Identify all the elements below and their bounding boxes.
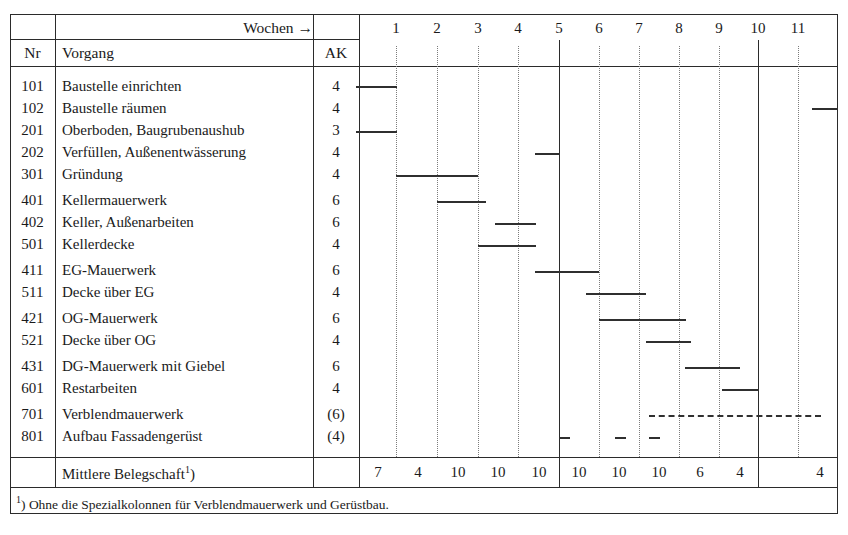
footnote-rule (10, 487, 838, 488)
row-nr: 102 (10, 100, 55, 117)
gantt-bar-801-seg-1 (559, 437, 570, 439)
row-nr: 501 (10, 236, 55, 253)
gridline-week-8 (679, 46, 680, 457)
staffing-rule-top (10, 457, 838, 458)
row-task: DG-Mauerwerk mit Giebel (62, 358, 225, 375)
row-nr: 402 (10, 214, 55, 231)
gantt-bar-102 (812, 108, 838, 110)
week-tick-1: 1 (381, 20, 411, 37)
gridline-week-11 (798, 46, 799, 457)
row-nr: 431 (10, 358, 55, 375)
weeks-axis-label: Wochen → (180, 16, 321, 40)
staffing-value-week-6: 10 (562, 464, 596, 481)
gantt-bar-501 (478, 245, 536, 247)
row-task: Verblendmauerwerk (62, 406, 184, 423)
gantt-bar-601 (722, 389, 759, 391)
row-task: Kellermauerwerk (62, 192, 167, 209)
row-ak: 6 (313, 358, 359, 375)
gantt-bar-411 (535, 271, 599, 273)
gridline-week-7 (639, 46, 640, 457)
gantt-bar-101 (356, 86, 397, 88)
gantt-bar-202 (535, 153, 560, 155)
column-header-ak: AK (313, 42, 359, 64)
gantt-bar-421 (599, 319, 686, 321)
gantt-bar-301 (396, 175, 478, 177)
row-ak: 6 (313, 192, 359, 209)
gridline-week-3 (478, 46, 479, 457)
row-task: OG-Mauerwerk (62, 310, 158, 327)
row-nr: 411 (10, 262, 55, 279)
week-tick-5: 5 (544, 20, 574, 37)
row-ak: 6 (313, 310, 359, 327)
header-rule-bottom (10, 66, 838, 67)
row-task: Baustelle einrichten (62, 78, 182, 95)
row-task: Restarbeiten (62, 380, 137, 397)
footnote: 1) Ohne die Spezialkolonnen für Verblend… (16, 494, 389, 513)
staffing-row-label: Mittlere Belegschaft1) (62, 464, 195, 483)
week-tick-2: 2 (422, 20, 452, 37)
gantt-bar-511 (586, 293, 646, 295)
row-ak: 4 (313, 100, 359, 117)
staffing-value-week-3: 10 (441, 464, 475, 481)
staffing-value-week-12: 4 (803, 464, 837, 481)
row-nr: 601 (10, 380, 55, 397)
gantt-bar-801-seg-2 (615, 437, 626, 439)
staffing-label-text: Mittlere Belegschaft (62, 466, 185, 482)
row-nr: 202 (10, 144, 55, 161)
divider-nr-vorgang (55, 14, 56, 487)
week-tick-3: 3 (463, 20, 493, 37)
row-ak: 6 (313, 262, 359, 279)
row-nr: 301 (10, 166, 55, 183)
row-nr: 201 (10, 122, 55, 139)
row-task: Baustelle räumen (62, 100, 167, 117)
row-task: Verfüllen, Außenentwässerung (62, 144, 246, 161)
row-ak: 4 (313, 332, 359, 349)
row-nr: 101 (10, 78, 55, 95)
row-task: EG-Mauerwerk (62, 262, 156, 279)
gantt-bar-201 (356, 131, 397, 133)
row-ak: (4) (313, 428, 359, 445)
week-tick-8: 8 (664, 20, 694, 37)
row-ak: 4 (313, 236, 359, 253)
week-tick-7: 7 (624, 20, 654, 37)
week-tick-9: 9 (704, 20, 734, 37)
row-task: Gründung (62, 166, 123, 183)
staffing-footnote-paren: ) (190, 466, 195, 482)
gantt-chart-figure: Wochen → Nr Vorgang AK 1 2 3 4 5 6 7 8 9… (0, 0, 848, 535)
staffing-value-week-10: 4 (723, 464, 757, 481)
gridline-week-9 (719, 46, 720, 457)
gridline-week-5 (559, 40, 560, 487)
gridline-week-4 (518, 46, 519, 457)
row-ak: 4 (313, 78, 359, 95)
staffing-value-week-9: 6 (683, 464, 717, 481)
week-tick-4: 4 (503, 20, 533, 37)
row-task: Oberboden, Baugrubenaushub (62, 122, 244, 139)
week-tick-10: 10 (743, 20, 773, 37)
gantt-bar-402 (495, 223, 536, 225)
gridline-week-2 (437, 46, 438, 457)
row-ak: 6 (313, 214, 359, 231)
staffing-value-week-4: 10 (481, 464, 515, 481)
column-header-vorgang: Vorgang (62, 42, 114, 64)
row-ak: 4 (313, 380, 359, 397)
row-task: Kellerdecke (62, 236, 134, 253)
gridline-week-1 (396, 46, 397, 457)
staffing-value-week-7: 10 (602, 464, 636, 481)
staffing-value-week-8: 10 (642, 464, 676, 481)
column-header-nr: Nr (10, 42, 55, 64)
gridline-week-10 (758, 40, 759, 487)
row-nr: 401 (10, 192, 55, 209)
row-task: Decke über EG (62, 284, 154, 301)
gridline-week-6 (599, 46, 600, 457)
staffing-value-week-5: 10 (522, 464, 556, 481)
row-ak: 4 (313, 144, 359, 161)
row-nr: 521 (10, 332, 55, 349)
row-nr: 701 (10, 406, 55, 423)
row-ak: 4 (313, 166, 359, 183)
row-nr: 511 (10, 284, 55, 301)
gantt-bar-521 (646, 341, 691, 343)
row-task: Keller, Außenarbeiten (62, 214, 194, 231)
footnote-text: Ohne die Spezialkolonnen für Verblendmau… (26, 497, 389, 512)
row-ak: (6) (313, 406, 359, 423)
row-ak: 3 (313, 122, 359, 139)
